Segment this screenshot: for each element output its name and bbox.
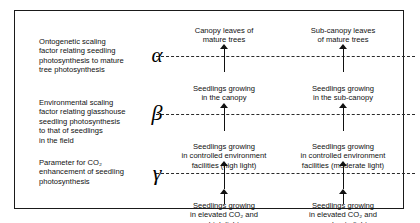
subcanopy-level-top: Sub-canopy leaves of mature trees [285, 26, 401, 45]
cell-line: Seedlings growing [169, 142, 279, 151]
desc-line: Parameter for CO₂ [39, 158, 151, 167]
desc-line: seedling photosynthesis [39, 117, 151, 126]
desc-line: Environmental scaling [39, 98, 151, 107]
arrow-tail [224, 56, 225, 72]
cell-line: Seedlings growing [285, 142, 401, 151]
desc-line: in the field [39, 136, 151, 145]
desc-line: factor relating seedling [39, 46, 151, 55]
subcanopy-level-second: Seedlings growing in the sub-canopy [285, 84, 401, 103]
arrow-tail [343, 114, 344, 131]
diagram-frame: α β γ Ontogenetic scaling factor relatin… [14, 10, 404, 209]
desc-line: Ontogenetic scaling [39, 37, 151, 46]
parameter-description-beta: Environmental scaling factor relating gl… [39, 98, 151, 145]
dashed-line-alpha [156, 56, 415, 57]
cell-line: in controlled environment [169, 151, 279, 160]
arrow-tail [343, 173, 344, 189]
arrow-tail [224, 173, 225, 189]
desc-line: factor relating glasshouse [39, 107, 151, 116]
canopy-level-top: Canopy leaves of mature trees [169, 26, 279, 45]
cell-line: in the canopy [169, 93, 279, 102]
desc-line: to that of seedlings [39, 126, 151, 135]
arrow-tail [343, 56, 344, 72]
cell-line: moderate light [285, 220, 401, 223]
cell-line: in elevated CO₂ and [285, 210, 401, 219]
parameter-description-alpha: Ontogenetic scaling factor relating seed… [39, 37, 151, 75]
canopy-level-second: Seedlings growing in the canopy [169, 84, 279, 103]
desc-line: photosynthesis [39, 177, 151, 186]
cell-line: high light [169, 220, 279, 223]
dashed-line-beta [156, 114, 415, 115]
dashed-line-gamma [156, 173, 415, 174]
cell-line: Canopy leaves of [169, 26, 279, 35]
cell-line: Seedlings growing [169, 84, 279, 93]
arrow-tail [224, 114, 225, 131]
subcanopy-level-fourth: Seedlings growing in elevated CO₂ and mo… [285, 201, 401, 223]
cell-line: Sub-canopy leaves [285, 26, 401, 35]
canopy-level-fourth: Seedlings growing in elevated CO₂ and hi… [169, 201, 279, 223]
desc-line: enhancement of seedling [39, 167, 151, 176]
cell-line: in the sub-canopy [285, 93, 401, 102]
cell-line: in elevated CO₂ and [169, 210, 279, 219]
desc-line: tree photosynthesis [39, 65, 151, 74]
cell-line: in controlled environment [285, 151, 401, 160]
cell-line: Seedlings growing [285, 84, 401, 93]
parameter-description-gamma: Parameter for CO₂ enhancement of seedlin… [39, 158, 151, 186]
desc-line: photosynthesis to mature [39, 56, 151, 65]
